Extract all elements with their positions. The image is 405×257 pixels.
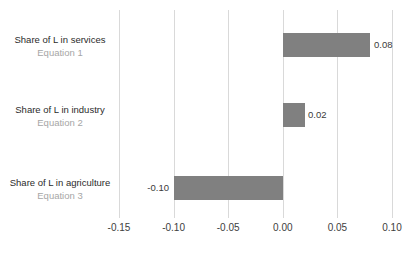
x-axis: -0.15 -0.10 -0.05 0.00 0.05 0.10 xyxy=(119,222,392,240)
category-sublabel: Equation 1 xyxy=(4,46,116,59)
category-name: Share of L in agriculture xyxy=(4,176,116,189)
category-name: Share of L in services xyxy=(4,33,116,46)
bar-industry[interactable] xyxy=(283,103,305,127)
xtick-label: -0.05 xyxy=(217,222,240,233)
category-label-industry: Share of L in industry Equation 2 xyxy=(4,103,116,129)
xtick-label: -0.10 xyxy=(162,222,185,233)
category-axis: Share of L in services Equation 1 Share … xyxy=(0,10,116,218)
xtick-label: 0.10 xyxy=(382,222,401,233)
plot-area: 0.08 0.02 -0.10 xyxy=(119,10,392,218)
category-label-agriculture: Share of L in agriculture Equation 3 xyxy=(4,176,116,202)
value-label-services: 0.08 xyxy=(374,33,393,57)
bar-agriculture[interactable] xyxy=(174,176,283,200)
category-sublabel: Equation 2 xyxy=(4,116,116,129)
xtick-label: 0.05 xyxy=(328,222,347,233)
bar-row: 0.08 xyxy=(119,33,392,57)
category-label-services: Share of L in services Equation 1 xyxy=(4,33,116,59)
value-label-industry: 0.02 xyxy=(308,103,327,127)
xtick-label: 0.00 xyxy=(273,222,292,233)
category-sublabel: Equation 3 xyxy=(4,189,116,202)
bar-chart: 0.08 0.02 -0.10 Share of L in services E… xyxy=(0,0,405,257)
bar-services[interactable] xyxy=(283,33,370,57)
bar-row: -0.10 xyxy=(119,176,392,200)
bar-row: 0.02 xyxy=(119,103,392,127)
xtick-label: -0.15 xyxy=(108,222,131,233)
value-label-agriculture: -0.10 xyxy=(119,176,169,200)
category-name: Share of L in industry xyxy=(4,103,116,116)
